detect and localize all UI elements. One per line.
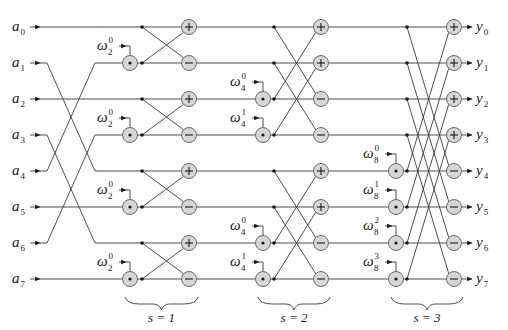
junction-dot bbox=[140, 205, 144, 209]
label-base: a bbox=[12, 162, 20, 178]
add-node bbox=[314, 20, 329, 35]
junction-dot bbox=[140, 133, 144, 137]
dot-icon bbox=[128, 205, 131, 208]
junction-dot bbox=[405, 61, 409, 65]
butterfly-cross bbox=[407, 68, 449, 207]
butterfly-cross bbox=[407, 140, 449, 279]
label-sup: 1 bbox=[242, 251, 247, 261]
label-base: ω bbox=[97, 181, 108, 197]
label-sub: 2 bbox=[108, 47, 113, 57]
multiply-node bbox=[389, 164, 404, 179]
butterfly-cross bbox=[407, 135, 449, 274]
label-base: ω bbox=[363, 181, 374, 197]
butterfly-cross bbox=[407, 99, 449, 238]
label-sub: 3 bbox=[484, 135, 489, 145]
label-sub: 7 bbox=[21, 279, 26, 289]
butterfly-cross bbox=[142, 104, 184, 135]
junction-dot bbox=[272, 97, 276, 101]
label-sub: 0 bbox=[21, 27, 26, 37]
twiddle-label: ω28 bbox=[363, 215, 379, 237]
add-node bbox=[182, 164, 197, 179]
output-label-y0: y0 bbox=[474, 18, 489, 37]
label-base: y bbox=[474, 270, 483, 286]
butterfly-cross bbox=[407, 32, 449, 171]
add-node bbox=[314, 164, 329, 179]
output-label-y4: y4 bbox=[474, 162, 489, 181]
multiply-node bbox=[256, 128, 271, 143]
label-sub: 2 bbox=[21, 99, 26, 109]
multiply-node bbox=[256, 92, 271, 107]
twiddle-label: ω02 bbox=[97, 251, 114, 273]
twiddle-wire bbox=[259, 262, 263, 272]
fft-butterfly-diagram: a0a1a2a3a4a5a6a7ω02ω02ω02ω02s = 1ω04ω14ω… bbox=[0, 0, 508, 330]
add-node bbox=[447, 128, 462, 143]
twiddle-label: ω14 bbox=[230, 107, 246, 129]
add-node bbox=[447, 56, 462, 71]
subtract-node bbox=[447, 236, 462, 251]
butterfly-cross bbox=[274, 68, 316, 135]
junction-dot bbox=[405, 241, 409, 245]
subtract-node bbox=[447, 200, 462, 215]
multiply-node bbox=[389, 200, 404, 215]
twiddle-label: ω02 bbox=[97, 107, 114, 129]
twiddle-wire bbox=[392, 154, 396, 164]
junction-dot bbox=[405, 277, 409, 281]
butterfly-cross bbox=[274, 63, 316, 130]
multiply-node bbox=[123, 56, 138, 71]
stage-brace bbox=[391, 297, 463, 310]
twiddle-wire bbox=[392, 226, 396, 236]
junction-dot bbox=[272, 277, 276, 281]
label-base: a bbox=[12, 270, 20, 286]
twiddle-label: ω14 bbox=[230, 251, 246, 273]
subtract-node bbox=[182, 56, 197, 71]
label-sub: 4 bbox=[21, 171, 26, 181]
label-sub: 5 bbox=[484, 207, 489, 217]
label-sup: 1 bbox=[242, 107, 247, 117]
twiddle-label: ω08 bbox=[363, 143, 380, 165]
label-base: ω bbox=[230, 109, 241, 125]
label-base: y bbox=[474, 126, 483, 142]
label-sub: 0 bbox=[484, 27, 489, 37]
dot-icon bbox=[128, 277, 131, 280]
multiply-node bbox=[256, 272, 271, 287]
junction-dot bbox=[140, 169, 144, 173]
junction-dot bbox=[140, 241, 144, 245]
butterfly-cross bbox=[407, 27, 449, 166]
junction-dot bbox=[140, 61, 144, 65]
label-base: ω bbox=[97, 109, 108, 125]
label-sup: 0 bbox=[242, 215, 247, 225]
butterfly-cross bbox=[274, 171, 316, 238]
multiply-node bbox=[389, 272, 404, 287]
label-sup: 0 bbox=[109, 107, 114, 117]
label-sub: 2 bbox=[108, 119, 113, 129]
add-node bbox=[182, 20, 197, 35]
dot-icon bbox=[394, 205, 397, 208]
junction-dot bbox=[272, 169, 276, 173]
input-label-a2: a2 bbox=[12, 90, 25, 109]
label-sup: 1 bbox=[375, 179, 380, 189]
label-base: y bbox=[474, 234, 483, 250]
multiply-node bbox=[123, 272, 138, 287]
label-sup: 0 bbox=[242, 71, 247, 81]
input-label-a7: a7 bbox=[12, 270, 26, 289]
input-label-a3: a3 bbox=[12, 126, 26, 145]
junction-dot bbox=[405, 169, 409, 173]
subtract-node bbox=[447, 164, 462, 179]
junction-dot bbox=[405, 25, 409, 29]
label-base: ω bbox=[363, 217, 374, 233]
butterfly-cross bbox=[407, 104, 449, 243]
butterfly-cross bbox=[142, 243, 184, 274]
twiddle-wire bbox=[126, 262, 130, 272]
label-base: y bbox=[474, 198, 483, 214]
junction-dot bbox=[140, 97, 144, 101]
input-label-a5: a5 bbox=[12, 198, 26, 217]
label-sub: 4 bbox=[241, 227, 246, 237]
label-sub: 5 bbox=[21, 207, 26, 217]
junction-dot bbox=[140, 25, 144, 29]
twiddle-wire bbox=[126, 118, 130, 128]
butterfly-cross bbox=[274, 207, 316, 274]
twiddle-label: ω02 bbox=[97, 179, 114, 201]
subtract-node bbox=[182, 200, 197, 215]
twiddle-wire bbox=[259, 82, 263, 92]
add-node bbox=[447, 92, 462, 107]
